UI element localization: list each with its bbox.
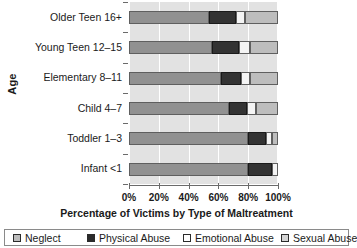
bar-segment-emotional-abuse	[272, 163, 278, 176]
y-axis-tick	[123, 32, 128, 33]
y-axis-label-young-teen-12-15: Young Teen 12–15	[18, 42, 122, 53]
x-axis-title: Percentage of Victims by Type of Maltrea…	[0, 207, 353, 219]
bar-segment-sexual-abuse	[250, 72, 278, 85]
bar-segment-sexual-abuse	[272, 132, 278, 145]
bar-segment-neglect	[129, 41, 212, 54]
bar-segment-physical-abuse	[248, 132, 266, 145]
legend-item-sexual-abuse[interactable]: Sexual Abuse	[281, 232, 357, 244]
x-axis-tick	[248, 183, 249, 189]
legend-item-physical-abuse[interactable]: Physical Abuse	[87, 232, 170, 244]
bar-row	[129, 63, 278, 93]
bar-row	[129, 123, 278, 153]
stacked-bar	[129, 132, 278, 145]
bar-segment-sexual-abuse	[245, 11, 278, 24]
bar-segment-emotional-abuse	[247, 102, 256, 115]
bar-segment-physical-abuse	[212, 41, 239, 54]
chart-legend: NeglectPhysical AbuseEmotional AbuseSexu…	[4, 229, 349, 246]
bar-segment-emotional-abuse	[239, 41, 249, 54]
x-axis-tick	[159, 183, 160, 189]
legend-item-label: Emotional Abuse	[195, 232, 274, 244]
bar-segment-sexual-abuse	[250, 41, 278, 54]
bar-segment-physical-abuse	[248, 163, 272, 176]
y-axis-label-older-teen-16: Older Teen 16+	[18, 12, 122, 23]
bar-segment-sexual-abuse	[256, 102, 278, 115]
bar-segment-neglect	[129, 102, 229, 115]
stacked-bar	[129, 72, 278, 85]
bar-segment-neglect	[129, 132, 248, 145]
legend-item-emotional-abuse[interactable]: Emotional Abuse	[183, 232, 274, 244]
emotional-abuse-swatch	[183, 234, 191, 242]
bar-segment-neglect	[129, 11, 209, 24]
legend-item-label: Sexual Abuse	[293, 232, 357, 244]
legend-item-neglect[interactable]: Neglect	[13, 232, 61, 244]
bar-segment-neglect	[129, 163, 248, 176]
bar-segment-physical-abuse	[229, 102, 247, 115]
stacked-bar	[129, 11, 278, 24]
y-axis-tick	[123, 184, 128, 185]
y-axis-label-child-4-7: Child 4–7	[18, 103, 122, 114]
x-axis-tick	[278, 183, 279, 189]
bar-segment-physical-abuse	[221, 72, 240, 85]
x-axis-tick	[218, 183, 219, 189]
y-axis-label-toddler-1-3: Toddler 1–3	[18, 133, 122, 144]
bar-segment-emotional-abuse	[236, 11, 245, 24]
y-axis-tick	[123, 154, 128, 155]
y-axis-tick	[123, 2, 128, 3]
y-axis-category-labels: Infant <1Toddler 1–3Child 4–7Elementary …	[18, 2, 122, 184]
y-axis-label-infant-1: Infant <1	[18, 163, 122, 174]
physical-abuse-swatch	[87, 234, 95, 242]
y-axis-title: Age	[6, 56, 18, 112]
bar-segment-neglect	[129, 72, 221, 85]
y-axis-tick	[123, 93, 128, 94]
legend-item-label: Physical Abuse	[99, 232, 170, 244]
bar-segment-emotional-abuse	[241, 72, 250, 85]
stacked-bar	[129, 41, 278, 54]
bar-row	[129, 2, 278, 32]
neglect-swatch	[13, 234, 21, 242]
sexual-abuse-swatch	[281, 234, 289, 242]
y-axis-tick	[123, 123, 128, 124]
y-axis-label-elementary-8-11: Elementary 8–11	[18, 72, 122, 83]
bar-row	[129, 93, 278, 123]
x-axis-tick-label: 100%	[258, 192, 298, 203]
x-axis-line	[129, 185, 279, 186]
bar-row	[129, 154, 278, 184]
bar-row	[129, 32, 278, 62]
stacked-bar	[129, 102, 278, 115]
x-axis-tick	[189, 183, 190, 189]
legend-item-label: Neglect	[25, 232, 61, 244]
y-axis-tick	[123, 63, 128, 64]
x-axis-tick	[129, 183, 130, 189]
plot-area	[129, 2, 278, 184]
bar-segment-physical-abuse	[209, 11, 236, 24]
stacked-bar	[129, 163, 278, 176]
